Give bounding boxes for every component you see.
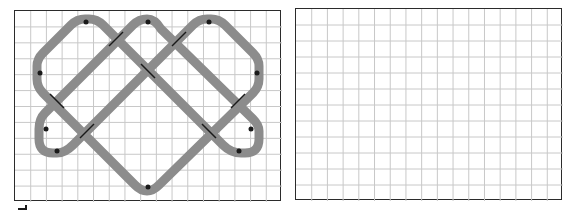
right-grid-panel [295,8,562,200]
apex-dot [207,20,212,25]
apex-dot [44,127,49,132]
right-grid-canvas [296,9,563,201]
apex-dot [55,149,60,154]
apex-dot [84,20,89,25]
corner-mark-icon [18,205,28,210]
apex-dot [146,20,151,25]
knot-band [37,19,259,191]
apex-dot [237,149,242,154]
apex-dot [146,185,151,190]
apex-dot [38,71,43,76]
apex-dot [255,71,260,76]
left-grid-panel [14,10,281,201]
apex-dot [249,127,254,132]
left-grid-canvas [15,11,282,202]
